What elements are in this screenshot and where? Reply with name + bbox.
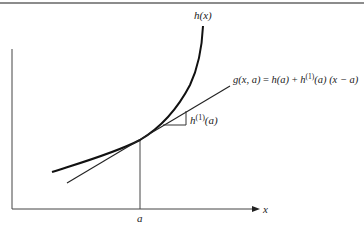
curve-label: h(x) [194,9,212,22]
x-axis-arrow-icon [252,206,260,212]
x-axis-label: x [262,203,268,215]
tangent-diagram: x a h(x) h(1)(a) g(x, a) = h(a) + h(1)(a… [0,0,364,228]
tangent-line [67,86,230,183]
slope-label: h(1)(a) [190,113,218,127]
tangent-equation: g(x, a) = h(a) + h(1)(a) (x − a) [233,72,359,86]
curve-h [52,26,203,172]
point-a-label: a [137,212,143,224]
